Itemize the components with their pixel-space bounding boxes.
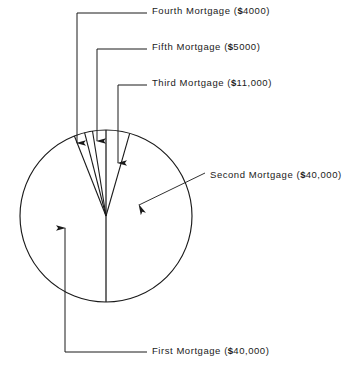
label-fourth-mortgage: Fourth Mortgage ($4000) (152, 6, 270, 16)
leader-fourth-mortgage (77, 13, 147, 143)
label-second-mortgage-amount: 40,000) (306, 169, 342, 180)
label-third-mortgage-amount: 11,000) (237, 77, 272, 88)
label-third-mortgage-text: Third Mortgage ( (152, 77, 231, 88)
label-fifth-mortgage: Fifth Mortgage ($5000) (152, 42, 260, 52)
label-fifth-mortgage-amount: 5000) (233, 41, 260, 52)
label-third-mortgage: Third Mortgage ($11,000) (152, 78, 272, 88)
chart-canvas (0, 0, 343, 365)
label-first-mortgage: First Mortgage ($40,000) (152, 346, 269, 356)
label-first-mortgage-amount: 40,000) (233, 345, 269, 356)
label-fourth-mortgage-text: Fourth Mortgage ( (152, 5, 237, 16)
label-first-mortgage-text: First Mortgage ( (152, 345, 228, 356)
label-fifth-mortgage-text: Fifth Mortgage ( (152, 41, 228, 52)
label-second-mortgage-text: Second Mortgage ( (210, 169, 300, 180)
label-second-mortgage: Second Mortgage ($40,000) (210, 170, 342, 180)
leader-fifth-mortgage (97, 49, 147, 141)
label-fourth-mortgage-amount: 4000) (243, 5, 270, 16)
pie-chart-figure: Fourth Mortgage ($4000) Fifth Mortgage (… (0, 0, 343, 365)
